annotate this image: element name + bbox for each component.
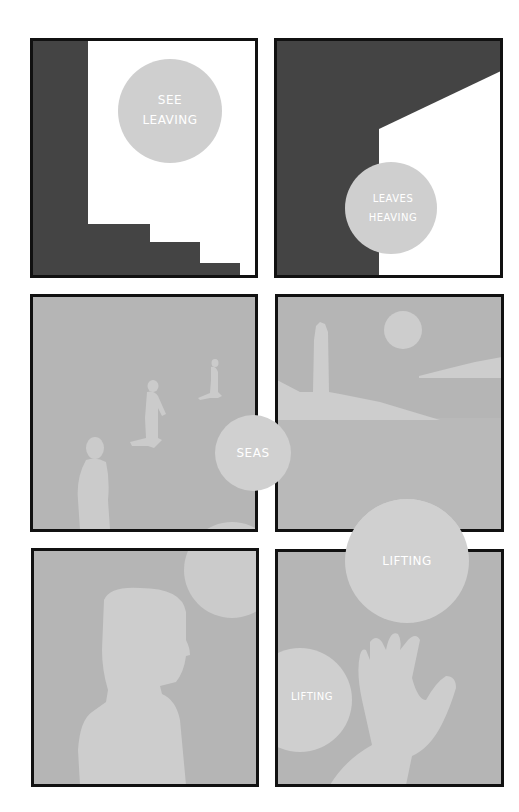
panel-1	[32, 40, 257, 277]
moon	[384, 311, 422, 349]
caption-bubble	[118, 59, 222, 163]
comic-page: SEE LEAVING LEAVES HEAVING SEAS LIFTING …	[0, 0, 519, 812]
caption-heaving: HEAVING	[369, 212, 418, 223]
caption-lifting-left: LIFTING	[291, 691, 333, 702]
panel-2	[276, 40, 502, 277]
panel-5	[33, 522, 281, 786]
caption-leaving: LEAVING	[142, 113, 197, 127]
caption-see: SEE	[158, 93, 182, 107]
caption-leaves: LEAVES	[373, 193, 414, 204]
caption-seas: SEAS	[236, 446, 269, 460]
caption-lifting-top: LIFTING	[382, 554, 432, 568]
bubble-top	[184, 522, 280, 618]
caption-bubble	[345, 162, 437, 254]
